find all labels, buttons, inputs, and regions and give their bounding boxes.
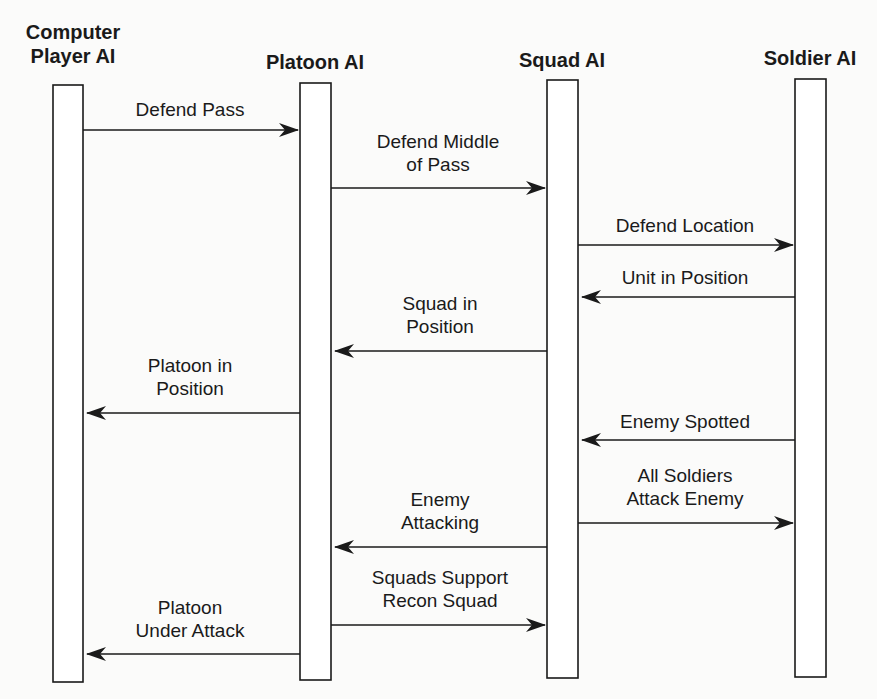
message-label: Defend Middle of Pass [348, 130, 528, 176]
message-label: Enemy Attacking [360, 488, 520, 534]
lifeline-squad [547, 80, 578, 678]
message-label: Enemy Spotted [585, 410, 785, 433]
message-label: Platoon in Position [110, 354, 270, 400]
message-label: Unit in Position [585, 266, 785, 289]
message-label: Platoon Under Attack [110, 596, 270, 642]
lifeline-computer [53, 85, 83, 682]
lifeline-header-soldier: Soldier AI [740, 46, 877, 70]
message-label: All Soldiers Attack Enemy [585, 464, 785, 510]
lifeline-soldier [795, 79, 826, 677]
lifeline-header-squad: Squad AI [492, 48, 632, 72]
lifeline-header-platoon: Platoon AI [245, 50, 385, 74]
message-label: Squad in Position [360, 292, 520, 338]
message-label: Defend Pass [110, 98, 270, 121]
lifeline-platoon [300, 83, 331, 680]
message-label: Squads Support Recon Squad [340, 566, 540, 612]
message-label: Defend Location [585, 214, 785, 237]
lifeline-header-computer: Computer Player AI [8, 20, 138, 68]
